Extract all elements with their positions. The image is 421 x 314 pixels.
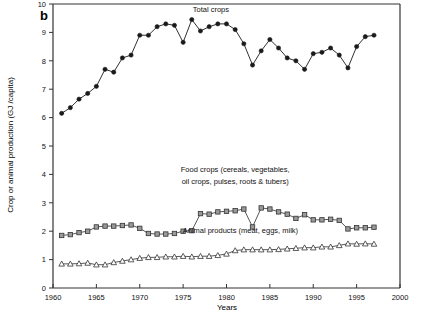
y-tick-label: 9: [42, 28, 46, 37]
data-point-marker: [120, 223, 124, 227]
data-point-marker: [285, 56, 289, 60]
y-tick-label: 6: [42, 113, 46, 122]
data-point-marker: [155, 232, 159, 236]
data-point-marker: [268, 37, 272, 41]
data-point-marker: [94, 225, 98, 229]
x-tick-label: 1960: [45, 293, 62, 302]
data-point-marker: [337, 218, 341, 222]
x-tick-label: 1995: [348, 293, 365, 302]
data-point-marker: [120, 56, 124, 60]
data-point-marker: [138, 33, 142, 37]
y-tick-label: 4: [42, 170, 46, 179]
production-line-chart: 0123456789101960196519701975198019851990…: [0, 0, 421, 314]
data-point-marker: [363, 35, 367, 39]
data-point-marker: [77, 230, 81, 234]
food-crops-label-line2: oil crops, pulses, roots & tubers): [182, 177, 290, 186]
data-point-marker: [302, 67, 306, 71]
data-point-marker: [285, 212, 289, 216]
y-tick-label: 7: [42, 85, 46, 94]
data-point-marker: [138, 226, 142, 230]
x-tick-label: 1975: [175, 293, 192, 302]
data-point-marker: [198, 29, 202, 33]
data-point-marker: [164, 232, 168, 236]
data-point-marker: [198, 211, 202, 215]
x-tick-label: 1970: [131, 293, 148, 302]
data-point-marker: [207, 212, 211, 216]
data-point-marker: [94, 84, 98, 88]
x-tick-label: 2000: [392, 293, 409, 302]
data-point-marker: [77, 97, 81, 101]
data-point-marker: [68, 232, 72, 236]
data-point-marker: [355, 45, 359, 49]
x-tick-label: 1980: [218, 293, 235, 302]
y-tick-label: 8: [42, 57, 46, 66]
data-point-marker: [164, 22, 168, 26]
data-point-marker: [112, 70, 116, 74]
data-point-marker: [181, 40, 185, 44]
data-point-marker: [276, 210, 280, 214]
data-point-marker: [337, 53, 341, 57]
data-point-marker: [328, 217, 332, 221]
data-point-marker: [224, 22, 228, 26]
data-point-marker: [233, 209, 237, 213]
data-point-marker: [86, 91, 90, 95]
data-point-marker: [190, 18, 194, 22]
data-point-marker: [276, 46, 280, 50]
data-point-marker: [146, 231, 150, 235]
data-point-marker: [172, 231, 176, 235]
data-point-marker: [250, 63, 254, 67]
data-point-marker: [259, 206, 263, 210]
data-point-marker: [242, 207, 246, 211]
y-tick-label: 5: [42, 142, 46, 151]
animal-products-label: Animal products (meat, eggs, milk): [183, 226, 299, 235]
data-point-marker: [320, 50, 324, 54]
data-point-marker: [103, 67, 107, 71]
x-axis-title: Years: [217, 303, 237, 312]
data-point-marker: [311, 52, 315, 56]
data-point-marker: [346, 66, 350, 70]
data-point-marker: [59, 233, 63, 237]
total-crops-label: Total crops: [193, 5, 230, 14]
data-point-marker: [129, 53, 133, 57]
data-point-marker: [103, 224, 107, 228]
y-tick-label: 2: [42, 227, 46, 236]
data-point-marker: [372, 225, 376, 229]
data-point-marker: [354, 226, 358, 230]
data-point-marker: [329, 46, 333, 50]
panel-label: b: [40, 8, 48, 23]
data-point-marker: [224, 209, 228, 213]
data-point-marker: [112, 224, 116, 228]
data-point-marker: [216, 22, 220, 26]
data-point-marker: [294, 216, 298, 220]
data-point-marker: [86, 229, 90, 233]
data-point-marker: [207, 25, 211, 29]
data-point-marker: [216, 210, 220, 214]
y-tick-label: 1: [42, 255, 46, 264]
x-tick-label: 1985: [262, 293, 279, 302]
data-point-marker: [302, 213, 306, 217]
data-point-marker: [155, 25, 159, 29]
data-point-marker: [68, 106, 72, 110]
data-point-marker: [146, 33, 150, 37]
x-tick-label: 1965: [88, 293, 105, 302]
figure-panel-b: 0123456789101960196519701975198019851990…: [0, 0, 421, 314]
y-tick-label: 0: [42, 284, 46, 293]
data-point-marker: [129, 223, 133, 227]
data-point-marker: [242, 42, 246, 46]
data-point-marker: [294, 59, 298, 63]
data-point-marker: [60, 111, 64, 115]
x-tick-label: 1990: [305, 293, 322, 302]
data-point-marker: [311, 218, 315, 222]
data-point-marker: [259, 49, 263, 53]
data-point-marker: [172, 23, 176, 27]
data-point-marker: [363, 226, 367, 230]
food-crops-label-line1: Food crops (cereals, vegetables,: [181, 165, 290, 174]
data-point-marker: [320, 218, 324, 222]
data-point-marker: [346, 227, 350, 231]
y-axis-title: Crop or animal production (GJ /capita): [6, 77, 15, 213]
data-point-marker: [268, 207, 272, 211]
data-point-marker: [372, 33, 376, 37]
y-tick-label: 3: [42, 199, 46, 208]
data-point-marker: [233, 27, 237, 31]
